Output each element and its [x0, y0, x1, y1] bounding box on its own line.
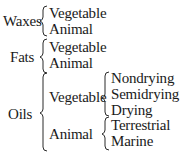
oils-animal-brace [102, 117, 109, 150]
oils-child-animal: Animal [49, 127, 93, 142]
waxes-child-vegetable: Vegetable [49, 6, 106, 21]
oils-animal-marine: Marine [111, 134, 153, 149]
oils-vegetable-nondrying: Nondrying [111, 71, 174, 86]
oils-vegetable-drying: Drying [111, 103, 152, 118]
group-label-fats: Fats [10, 50, 34, 65]
oils-brace [40, 73, 47, 151]
oils-child-vegetable: Vegetable [49, 90, 106, 105]
group-label-oils: Oils [8, 107, 32, 122]
oils-animal-terrestrial: Terrestrial [111, 118, 170, 133]
fats-brace [40, 39, 47, 73]
fats-child-animal: Animal [49, 56, 93, 71]
waxes-child-animal: Animal [49, 22, 93, 37]
fats-child-vegetable: Vegetable [49, 40, 106, 55]
group-label-waxes: Waxes [3, 14, 42, 29]
oils-vegetable-semidrying: Semidrying [111, 87, 179, 102]
